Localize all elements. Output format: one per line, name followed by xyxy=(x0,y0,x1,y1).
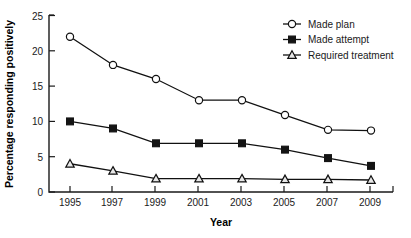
line-chart-svg: 25 20 15 10 5 0 Percentage responding po… xyxy=(0,0,411,238)
datapoint-made-plan-2001 xyxy=(195,97,202,104)
chart-figure: 25 20 15 10 5 0 Percentage responding po… xyxy=(0,0,411,238)
datapoint-made-attempt-2005 xyxy=(282,146,289,153)
legend-marker-open-circle xyxy=(288,20,295,27)
datapoint-made-attempt-2001 xyxy=(196,140,203,147)
y-tick-label-25: 25 xyxy=(32,11,44,22)
y-tick-label-5: 5 xyxy=(37,152,43,163)
y-tick-label-10: 10 xyxy=(32,116,44,127)
x-axis-title: Year xyxy=(210,216,232,228)
legend-marker-filled-square xyxy=(289,36,296,43)
datapoint-made-attempt-2003 xyxy=(239,140,246,147)
datapoint-made-attempt-1995 xyxy=(67,118,74,125)
legend-item-made-attempt[interactable]: Made attempt xyxy=(283,34,369,45)
y-tick-label-20: 20 xyxy=(32,46,44,57)
datapoint-made-attempt-1997 xyxy=(110,125,117,132)
datapoint-made-attempt-1999 xyxy=(153,140,160,147)
x-tick-label-1999: 1999 xyxy=(144,197,167,208)
datapoint-made-plan-2009 xyxy=(367,127,374,134)
legend-label-made-plan: Made plan xyxy=(308,19,355,30)
datapoint-made-plan-2007 xyxy=(324,126,331,133)
legend-label-required-treatment: Required treatment xyxy=(308,50,394,61)
datapoint-made-attempt-2007 xyxy=(325,155,332,162)
x-tick-label-1997: 1997 xyxy=(101,197,124,208)
datapoint-made-plan-2005 xyxy=(281,111,288,118)
datapoint-made-plan-1999 xyxy=(152,75,159,82)
x-tick-label-2003: 2003 xyxy=(230,197,253,208)
datapoint-made-plan-2003 xyxy=(238,97,245,104)
datapoint-made-plan-1995 xyxy=(66,33,73,40)
x-tick-label-2007: 2007 xyxy=(316,197,339,208)
x-tick-label-2005: 2005 xyxy=(273,197,296,208)
y-tick-label-0: 0 xyxy=(37,187,43,198)
datapoint-made-attempt-2009 xyxy=(368,162,375,169)
x-tick-label-2009: 2009 xyxy=(359,197,382,208)
legend-label-made-attempt: Made attempt xyxy=(308,34,369,45)
datapoint-made-plan-1997 xyxy=(109,61,116,68)
x-tick-label-1995: 1995 xyxy=(59,197,82,208)
y-tick-label-15: 15 xyxy=(32,81,44,92)
x-tick-label-2001: 2001 xyxy=(187,197,210,208)
y-axis-title: Percentage responding positively xyxy=(3,20,15,188)
